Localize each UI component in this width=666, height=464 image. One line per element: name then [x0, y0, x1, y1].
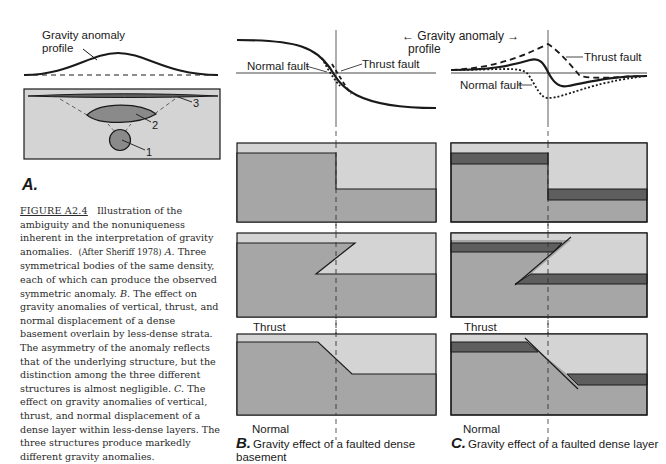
b-thrust-section-label: Thrust	[253, 321, 286, 334]
caption-b-letter: B.	[120, 288, 130, 299]
panel-c-letter: C.	[451, 434, 466, 451]
panel-b-vertical-section	[237, 143, 436, 222]
panel-c-thrust-section	[451, 233, 647, 317]
body-2-label: 2	[152, 119, 158, 131]
caption-b: The effect on gravity anomalies of verti…	[20, 288, 219, 394]
panel-b-caption: B.Gravity effect of a faulted dense base…	[236, 436, 436, 464]
caption-a-letter: A.	[165, 246, 175, 257]
body-3-label: 3	[193, 97, 199, 109]
panel-a-letter: A.	[22, 176, 38, 194]
c-thrust-section-label: Thrust	[464, 321, 497, 334]
panel-c-normal-section	[451, 334, 647, 415]
panel-b-graph	[236, 30, 436, 440]
b-normal-section-label: Normal	[252, 423, 289, 436]
caption-c-letter: C.	[174, 383, 184, 394]
panel-b-letter: B.	[236, 434, 251, 451]
profile-label-line1: Gravity anomaly	[42, 29, 125, 42]
panel-b-normal-section	[237, 334, 436, 415]
panel-b-thrust-section	[237, 233, 436, 317]
caption-source: (After Sheriff 1978)	[78, 247, 161, 257]
figure-id: FIGURE A2.4	[20, 205, 88, 216]
panel-c-caption: C.Gravity effect of a faulted dense laye…	[451, 436, 666, 451]
b-thrust-fault-label: Thrust fault	[362, 58, 420, 71]
b-normal-fault-label: Normal fault	[247, 60, 309, 73]
profile-label-line2: profile	[42, 42, 73, 55]
c-thrust-fault-label: Thrust fault	[584, 51, 642, 64]
caption-c: The effect on gravity anomalies of verti…	[20, 383, 220, 462]
panel-c-vertical-section	[451, 143, 647, 222]
body-1-label: 1	[146, 146, 152, 158]
c-normal-section-label: Normal	[463, 423, 500, 436]
gravity-anomaly-header-profile: profile	[408, 43, 441, 56]
panel-c-caption-text: Gravity effect of a faulted dense layer	[468, 438, 658, 450]
c-normal-fault-label: Normal fault	[460, 79, 522, 92]
panel-b-caption-text: Gravity effect of a faulted dense baseme…	[236, 438, 415, 463]
figure-caption: FIGURE A2.4 Illustration of the ambiguit…	[20, 204, 225, 463]
